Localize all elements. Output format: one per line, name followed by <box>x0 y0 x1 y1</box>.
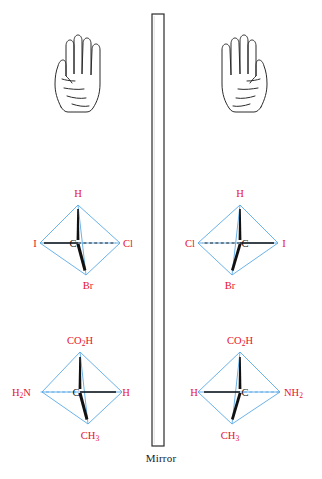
label-right-center: C <box>241 238 248 249</box>
label-left-h: H <box>122 387 130 398</box>
mirror-caption: Mirror <box>0 452 322 464</box>
label-right-right: I <box>282 238 286 249</box>
label-left-center: C <box>69 238 76 249</box>
label-left-h2n: H2N <box>12 387 31 400</box>
label-right-center-c: C <box>241 387 248 398</box>
label-right-h: H <box>190 387 198 398</box>
label-right-top: H <box>236 188 244 199</box>
figure-page: H I Cl Br C H Cl I Br C <box>0 0 322 479</box>
label-left-ch3: CH3 <box>81 430 100 443</box>
left-hand-illustration <box>55 35 100 112</box>
mirror-plane <box>152 14 164 446</box>
label-left-co2h: CO2H <box>67 335 93 348</box>
chirality-figure: H I Cl Br C H Cl I Br C <box>0 0 322 479</box>
label-left-top: H <box>74 188 82 199</box>
molecule-right-alanine: CO2H H NH2 CH3 C <box>190 335 303 443</box>
right-hand-illustration <box>222 35 267 112</box>
molecule-right-chbrcli: H Cl I Br C <box>185 188 286 291</box>
label-left-left: I <box>33 238 37 249</box>
label-right-left: Cl <box>185 238 195 249</box>
label-left-right: Cl <box>123 238 133 249</box>
label-right-bottom: Br <box>225 280 236 291</box>
label-right-nh2: NH2 <box>284 387 303 400</box>
label-left-bottom: Br <box>83 280 94 291</box>
label-left-center-c: C <box>72 387 79 398</box>
label-right-ch3: CH3 <box>221 430 240 443</box>
molecule-left-chbrcli: H I Cl Br C <box>33 188 133 291</box>
molecule-left-alanine: CO2H H2N H CH3 C <box>12 335 130 443</box>
label-right-co2h: CO2H <box>227 335 253 348</box>
